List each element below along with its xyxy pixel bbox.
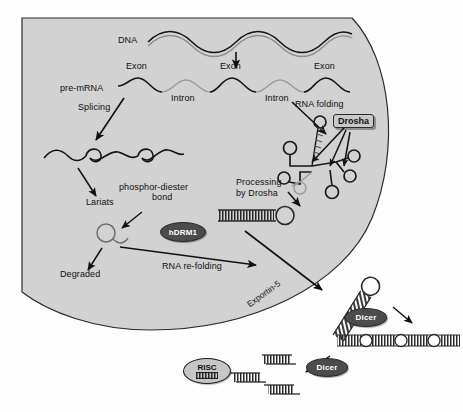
label-by-drosha: by Drosha bbox=[236, 189, 278, 198]
dicer-enzyme-badge-1[interactable]: Dicer bbox=[345, 308, 387, 327]
hdrm1-enzyme-badge[interactable]: hDRM1 bbox=[160, 222, 206, 242]
label-rna-folding: RNA folding bbox=[295, 100, 344, 109]
arrow-dicer-cleave-1 bbox=[393, 307, 412, 323]
label-pre-mrna: pre-mRNA bbox=[60, 84, 103, 93]
label-degraded: Degraded bbox=[60, 270, 100, 279]
label-processing: Processing bbox=[236, 178, 282, 187]
label-splicing: Splicing bbox=[78, 103, 110, 112]
label-exon-2: Exon bbox=[220, 62, 241, 71]
long-dsrna bbox=[337, 335, 460, 347]
dicer-enzyme-badge-2[interactable]: Dicer bbox=[306, 358, 348, 377]
figure-canvas: DNA pre-mRNA Exon Exon Exon Intron Intro… bbox=[0, 0, 463, 412]
label-intron-1: Intron bbox=[171, 94, 195, 103]
sirna-duplex-2 bbox=[230, 373, 266, 382]
risc-complex-badge[interactable]: RISC bbox=[183, 358, 231, 384]
label-intron-2: Intron bbox=[265, 94, 289, 103]
label-bond: bond bbox=[152, 193, 172, 202]
label-exon-1: Exon bbox=[126, 62, 147, 71]
label-dna: DNA bbox=[118, 36, 137, 45]
risc-label: RISC bbox=[197, 364, 216, 372]
sirna-duplex-1 bbox=[262, 355, 296, 364]
risc-duplex-icon bbox=[196, 372, 218, 379]
sirna-duplex-3 bbox=[264, 385, 300, 394]
label-exon-3: Exon bbox=[314, 62, 335, 71]
drosha-label-box[interactable]: Drosha bbox=[333, 114, 374, 128]
label-lariats: Lariats bbox=[86, 198, 114, 207]
label-rna-refolding: RNA re-folding bbox=[162, 262, 222, 271]
